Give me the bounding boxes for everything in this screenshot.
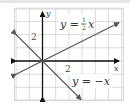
line1-label-denominator: 2 (82, 24, 86, 31)
y-axis-label: y (45, 9, 51, 18)
x-tick-label: 2 (65, 64, 71, 74)
line1-label-lhs: y = (59, 18, 79, 31)
line1-label-numerator: 1 (82, 16, 86, 23)
y-tick-label: 2 (31, 32, 37, 42)
line2-label: y = −x (71, 75, 111, 88)
line1-label-var: x (88, 18, 95, 31)
coordinate-plane: y = 1 2 x y = −x 2 2 y x (0, 0, 130, 104)
x-axis-label: x (114, 64, 119, 73)
